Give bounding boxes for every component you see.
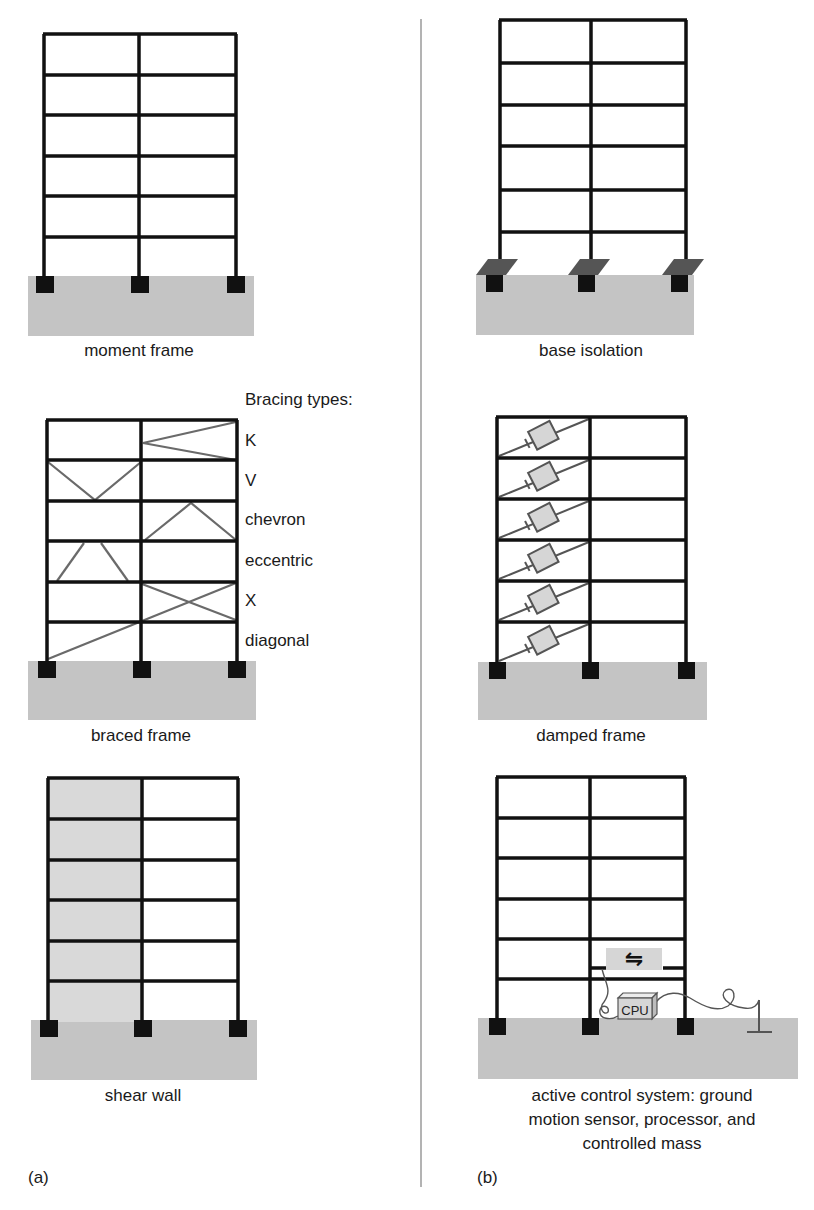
caption-active-control: active control system: ground motion sen… [529, 1084, 756, 1156]
structural-systems-diagram: ⇋ CPU [0, 0, 814, 1210]
shear-wall-diagram [31, 778, 257, 1080]
cpu-label: CPU [621, 1003, 648, 1018]
caption-line-1: active control system: ground [529, 1084, 756, 1108]
bracing-label-k: K [245, 431, 256, 451]
caption-braced-frame: braced frame [91, 724, 191, 748]
bracing-label-v: V [245, 471, 256, 491]
caption-line-2: motion sensor, processor, and [529, 1108, 756, 1132]
bracing-label-x: X [245, 591, 256, 611]
bracing-label-chevron: chevron [245, 510, 305, 530]
panel-label-a: (a) [28, 1168, 49, 1188]
bracing-label-eccentric: eccentric [245, 551, 313, 571]
braced-frame-diagram [28, 420, 256, 720]
panel-label-b: (b) [477, 1168, 498, 1188]
base-isolation-diagram [476, 20, 704, 335]
damped-frame-diagram [478, 417, 707, 720]
caption-moment-frame: moment frame [84, 339, 194, 363]
caption-shear-wall: shear wall [105, 1084, 182, 1108]
ground [478, 1018, 798, 1079]
caption-line-3: controlled mass [529, 1132, 756, 1156]
caption-base-isolation: base isolation [539, 339, 643, 363]
bracing-label-diagonal: diagonal [245, 631, 309, 651]
moment-frame-diagram [28, 34, 254, 336]
cpu-processor: CPU [618, 993, 657, 1019]
bidirectional-arrow-icon: ⇋ [625, 946, 643, 971]
active-control-diagram: ⇋ CPU [478, 777, 798, 1079]
bracing-types-title: Bracing types: [245, 390, 353, 410]
isolator-bearings [476, 259, 704, 275]
caption-damped-frame: damped frame [536, 724, 646, 748]
